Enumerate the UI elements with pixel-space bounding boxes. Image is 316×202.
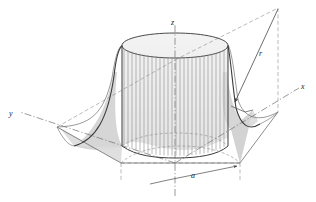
radial-distance-label: r <box>259 49 263 58</box>
radial-distance-construction <box>231 9 278 112</box>
a-dimension-tail <box>150 180 168 184</box>
axis-label-y: y <box>8 109 13 118</box>
r-arrow-line <box>235 9 278 102</box>
axis-label-z: z <box>170 18 175 27</box>
radius-dimension-label: a <box>191 171 195 180</box>
axis-label-x: x <box>300 82 305 91</box>
potential-surface-figure: y x z a r <box>0 0 316 202</box>
figure-container: y x z a r <box>0 0 316 202</box>
a-dimension-line <box>168 166 237 180</box>
